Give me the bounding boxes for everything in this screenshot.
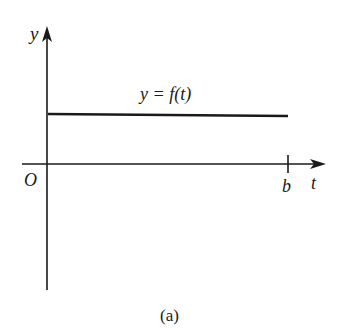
x-axis-label: t xyxy=(311,173,316,194)
y-axis-label: y xyxy=(30,23,38,45)
origin-label: O xyxy=(24,170,37,191)
b-tick-label: b xyxy=(282,176,291,197)
function-label-arg: (t) xyxy=(174,84,191,104)
diagram-figure: y y = f(t) O b t (a) xyxy=(0,0,343,328)
figure-caption: (a) xyxy=(160,306,179,326)
function-label: y = f(t) xyxy=(140,84,191,105)
function-label-prefix: y = xyxy=(140,84,169,104)
diagram-svg xyxy=(0,0,343,328)
function-line xyxy=(48,114,288,116)
